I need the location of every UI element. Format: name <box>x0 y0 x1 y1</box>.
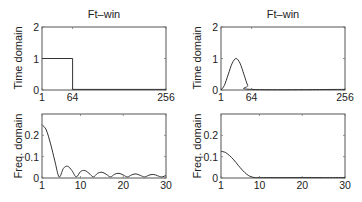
y-tick-label: 0.1 <box>203 151 218 163</box>
data-line <box>221 151 345 177</box>
x-tick-label: 1 <box>39 179 45 191</box>
x-tick-label: 10 <box>254 179 266 191</box>
axes-top-left-time-domain: 164256012 <box>33 21 175 103</box>
figure: Ft–win Ft–win Time domain Time domain Fr… <box>0 0 362 202</box>
data-line <box>42 125 166 177</box>
x-tick-label: 20 <box>296 179 308 191</box>
x-tick-label: 256 <box>336 91 354 103</box>
x-tick-label: 64 <box>67 91 79 103</box>
axes-bottom-left-freq-domain: 110203000.10.2 <box>24 114 172 191</box>
y-tick-label: 0 <box>212 172 218 184</box>
y-tick-label: 1 <box>33 53 39 65</box>
y-tick-label: 1 <box>212 53 218 65</box>
x-tick-label: 10 <box>75 179 87 191</box>
plot-frame <box>221 114 345 178</box>
axes-bottom-right-freq-domain: 110203000.10.2 <box>203 114 351 191</box>
x-tick-label: 30 <box>160 179 172 191</box>
x-tick-label: 1 <box>218 91 224 103</box>
ylabel-top-left: Time domain <box>12 26 24 89</box>
y-tick-label: 0 <box>33 172 39 184</box>
y-tick-label: 0 <box>212 84 218 96</box>
plot-frame <box>221 27 345 90</box>
x-tick-label: 256 <box>157 91 175 103</box>
y-tick-label: 0.2 <box>203 129 218 141</box>
y-tick-label: 0 <box>33 84 39 96</box>
ylabel-bottom-right: Freq. domain <box>191 114 203 179</box>
data-line <box>221 59 345 91</box>
x-tick-label: 64 <box>246 91 258 103</box>
y-tick-label: 0.1 <box>24 151 39 163</box>
y-tick-label: 2 <box>33 21 39 33</box>
axes-top-right-time-domain: 164256012 <box>212 21 354 103</box>
plot-title-right: Ft–win <box>267 8 299 20</box>
x-tick-label: 1 <box>39 91 45 103</box>
x-tick-label: 1 <box>218 179 224 191</box>
data-line <box>42 59 166 90</box>
y-tick-label: 2 <box>212 21 218 33</box>
plot-title-left: Ft–win <box>88 8 120 20</box>
x-tick-label: 20 <box>117 179 129 191</box>
ylabel-bottom-left: Freq. domain <box>12 114 24 179</box>
plot-frame <box>42 114 166 178</box>
ylabel-top-right: Time domain <box>191 26 203 89</box>
y-tick-label: 0.2 <box>24 129 39 141</box>
x-tick-label: 30 <box>339 179 351 191</box>
